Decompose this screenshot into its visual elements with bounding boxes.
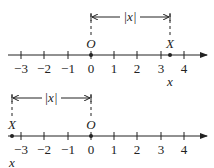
coordinate-label: x: [8, 155, 15, 168]
x-point: [10, 134, 14, 138]
bottom-number-line: −3 −2 −1 0 1 2 3 4 O X x |x|: [7, 90, 207, 168]
tick-label: −1: [61, 142, 75, 157]
origin-point: [89, 134, 93, 138]
tick-label: 2: [134, 61, 141, 76]
tick-label: 1: [111, 61, 118, 76]
tick-label: 0: [88, 142, 95, 157]
tick-label: 2: [134, 142, 141, 157]
origin-point: [89, 53, 93, 57]
tick-label: 3: [158, 142, 165, 157]
origin-label: O: [86, 36, 96, 51]
point-label: X: [7, 117, 17, 132]
tick-label: 3: [158, 61, 165, 76]
tick-label: −2: [37, 61, 51, 76]
coordinate-label: x: [166, 74, 173, 89]
tick-label: 0: [88, 61, 95, 76]
tick-label: 1: [111, 142, 118, 157]
tick-label: −3: [14, 61, 28, 76]
point-label: X: [165, 36, 175, 51]
tick-label: −3: [14, 142, 28, 157]
distance-label: |x|: [124, 9, 137, 24]
x-point: [168, 53, 172, 57]
tick-label: 4: [181, 61, 188, 76]
tick-label: −2: [37, 142, 51, 157]
tick-label: 4: [181, 142, 188, 157]
origin-label: O: [86, 117, 96, 132]
distance-label: |x|: [45, 90, 58, 105]
top-number-line: −3 −2 −1 0 1 2 3 4 O X x |x|: [8, 9, 207, 89]
tick-label: −1: [61, 61, 75, 76]
number-line-diagram: −3 −2 −1 0 1 2 3 4 O X x |x|: [0, 0, 214, 168]
